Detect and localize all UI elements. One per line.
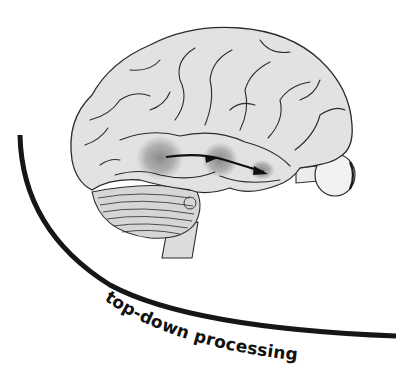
highlight-posterior (136, 136, 184, 180)
cerebellum (92, 185, 200, 238)
highlight-anterior (249, 160, 275, 180)
top-down-processing-figure: top-down processing (0, 0, 396, 391)
